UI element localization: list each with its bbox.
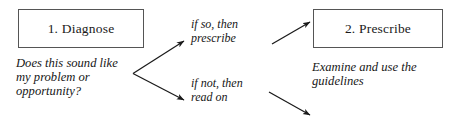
node-box-prescribe[interactable]: 2. Prescribe: [313, 9, 443, 48]
node-label-diagnose: 1. Diagnose: [48, 21, 115, 37]
edge-label-branch-no: if not, then read on: [191, 76, 281, 104]
caption-diagnose: Does this sound like my problem or oppor…: [16, 56, 176, 99]
edge-label-branch-yes: if so, then prescribe: [191, 17, 281, 45]
node-label-prescribe: 2. Prescribe: [345, 21, 411, 37]
caption-prescribe: Examine and use the guidelines: [312, 60, 452, 88]
flow-diagram: 1. Diagnose 2. Prescribe Does this sound…: [0, 0, 457, 120]
node-box-diagnose[interactable]: 1. Diagnose: [18, 9, 144, 48]
